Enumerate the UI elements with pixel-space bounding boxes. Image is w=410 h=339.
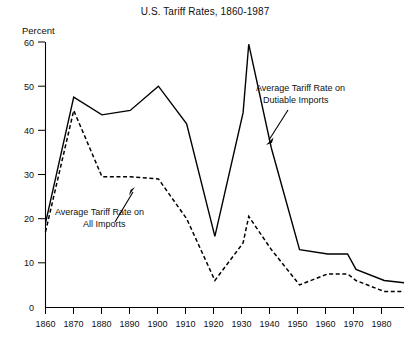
x-tick-label-1960: 1960 <box>315 319 335 329</box>
y-tick-label-50: 50 <box>24 82 34 92</box>
x-tick-label-1930: 1930 <box>231 319 251 329</box>
x-tick-label-1950: 1950 <box>287 319 307 329</box>
y-tick-label-40: 40 <box>24 126 34 136</box>
x-tick-label-1860: 1860 <box>35 319 55 329</box>
annotation-all-line2: All Imports <box>83 219 126 229</box>
annotation-dutiable-line1: Average Tariff Rate on <box>256 83 345 93</box>
x-tick-label-1910: 1910 <box>175 319 195 329</box>
x-tick-label-1870: 1870 <box>63 319 83 329</box>
x-tick-label-1880: 1880 <box>91 319 111 329</box>
y-tick-label-30: 30 <box>24 170 34 180</box>
annotation-dutiable-arrow-shaft <box>269 110 288 140</box>
x-tick-label-1970: 1970 <box>343 319 363 329</box>
x-tick-label-1980: 1980 <box>371 319 391 329</box>
x-tick-label-1890: 1890 <box>119 319 139 329</box>
y-tick-label-10: 10 <box>24 258 34 268</box>
annotation-all-line1: Average Tariff Rate on <box>55 207 144 217</box>
series-line-dutiable <box>46 44 405 283</box>
x-tick-label-1940: 1940 <box>259 319 279 329</box>
x-tick-label-1920: 1920 <box>203 319 223 329</box>
y-tick-label-0: 0 <box>29 303 34 313</box>
y-tick-label-60: 60 <box>24 38 34 48</box>
annotation-all-imports: Average Tariff Rate on All Imports <box>55 187 144 229</box>
chart-svg: 60 50 40 30 20 10 0 1860 1870 1880 1890 … <box>0 0 410 339</box>
series-line-all-imports <box>46 110 405 291</box>
annotation-dutiable-line2: Dutiable Imports <box>263 95 329 105</box>
y-axis-ticks <box>38 42 45 263</box>
chart-figure: U.S. Tariff Rates, 1860-1987 Percent 60 … <box>0 0 410 339</box>
y-tick-label-20: 20 <box>24 214 34 224</box>
x-tick-label-1900: 1900 <box>147 319 167 329</box>
